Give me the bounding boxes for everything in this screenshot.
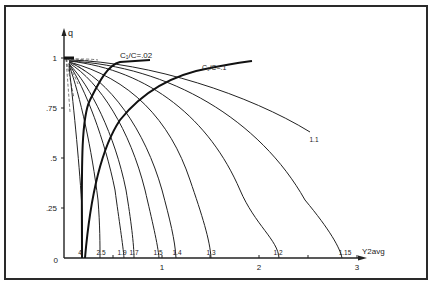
y-axis-label: q (68, 28, 73, 38)
label-4: 4 (78, 249, 82, 256)
y-axis-arrow-icon (62, 28, 67, 36)
curve-4 (69, 66, 82, 258)
curve-1.2 (69, 61, 279, 258)
curve-1.3 (69, 62, 211, 258)
label-1.4: 1.4 (172, 249, 181, 256)
y-tick-0.75: .75 (46, 104, 58, 113)
x-tick-3: 3 (355, 263, 360, 272)
label-1.5: 1.5 (153, 249, 162, 256)
annotation-c1c-0.1: C₁/C=.1 (202, 64, 226, 71)
label-1.3: 1.3 (206, 249, 215, 256)
curve-1.4 (69, 62, 176, 258)
curve-labels: 4 2.5 1.9 1.7 1.5 1.4 1.3 1.2 1.15 1.1 (78, 136, 352, 256)
x-axis-label: Y2avg (362, 247, 385, 256)
x-tick-1: 1 (160, 263, 165, 272)
annotation-c1c-0.02: C₁/C=.02 (120, 51, 153, 60)
curves (69, 60, 342, 258)
label-1.7: 1.7 (129, 249, 138, 256)
y-tick-0.5: .5 (50, 154, 57, 163)
curve-1.1 (69, 60, 310, 132)
y-tick-1: 1 (53, 54, 58, 63)
x-tick-2: 2 (257, 263, 262, 272)
y-tick-0: 0 (54, 256, 59, 265)
envelope-c1c-0.1 (85, 61, 252, 258)
label-2.5: 2.5 (96, 249, 105, 256)
label-1.2: 1.2 (273, 249, 282, 256)
x-axis-arrow-icon (358, 256, 367, 261)
chart-plot: 1 .75 .5 .25 0 1 2 3 q Y2avg C₁/C=.02 C₁… (0, 0, 433, 286)
label-1.9: 1.9 (117, 249, 126, 256)
label-1.1: 1.1 (309, 136, 318, 143)
label-1.15: 1.15 (339, 249, 352, 256)
y-tick-0.25: .25 (46, 204, 58, 213)
